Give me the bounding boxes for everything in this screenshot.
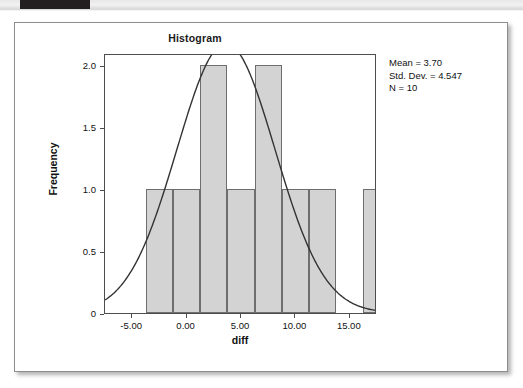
stat-std-dev: Std. Dev. = 4.547 [389, 70, 462, 83]
x-tick-mark [294, 314, 295, 318]
x-tick-mark [349, 314, 350, 318]
x-tick-label: -5.00 [108, 320, 154, 331]
top-black-tab [20, 0, 90, 9]
stat-mean: Mean = 3.70 [389, 57, 462, 70]
figure-card: Histogram Frequency 00.51.01.52.0 -5.000… [14, 22, 508, 372]
x-tick-mark [240, 314, 241, 318]
plot-area [104, 54, 376, 314]
x-tick-mark [186, 314, 187, 318]
y-tick-label: 1.0 [62, 185, 96, 195]
plot-inner [105, 55, 375, 313]
y-tick-label: 0.5 [62, 247, 96, 257]
x-tick-mark [131, 314, 132, 318]
x-axis-title: diff [104, 334, 376, 346]
y-tick-label: 1.5 [62, 123, 96, 133]
y-tick-label: 2.0 [62, 61, 96, 71]
y-axis-ticks: 00.51.01.52.0 [62, 54, 104, 314]
stat-n: N = 10 [389, 82, 462, 95]
y-axis-title: Frequency [47, 109, 59, 229]
y-tick-label: 0 [62, 309, 96, 319]
x-tick-label: 15.00 [326, 320, 372, 331]
x-tick-label: 0.00 [163, 320, 209, 331]
statistics-annotation: Mean = 3.70 Std. Dev. = 4.547 N = 10 [389, 57, 462, 95]
chart-title: Histogram [15, 32, 375, 44]
normal-distribution-curve [105, 55, 375, 313]
x-tick-label: 10.00 [271, 320, 317, 331]
top-decorative-band [0, 0, 523, 9]
histogram-chart: Histogram Frequency 00.51.01.52.0 -5.000… [15, 23, 509, 373]
top-rule-divider [0, 9, 523, 11]
x-tick-label: 5.00 [217, 320, 263, 331]
